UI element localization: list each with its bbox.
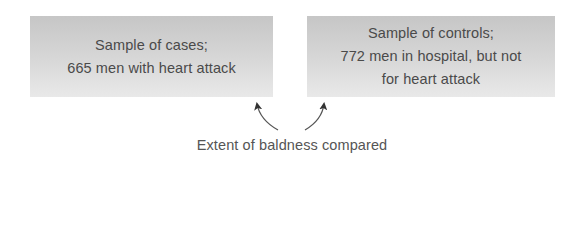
arrow-to-controls-icon [305, 104, 324, 130]
arrow-to-cases-icon [257, 104, 278, 130]
comparison-caption: Extent of baldness compared [0, 137, 580, 153]
